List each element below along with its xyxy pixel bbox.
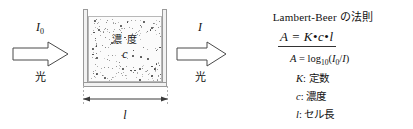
- main-equation-term3: l: [329, 29, 333, 44]
- particle-speckle-icon: [95, 77, 96, 78]
- particle-speckle-icon: [122, 28, 123, 29]
- particle-speckle-icon: [142, 66, 143, 67]
- particle-speckle-icon: [101, 68, 102, 69]
- concentration-symbol: c: [88, 47, 162, 62]
- particle-speckle-icon: [140, 20, 141, 21]
- definition-row-k: K: 定数: [238, 70, 408, 85]
- particle-speckle-icon: [141, 26, 142, 27]
- particle-speckle-icon: [94, 76, 95, 77]
- right-block-arrow-icon: [12, 41, 70, 67]
- particle-speckle-icon: [112, 68, 113, 69]
- lambert-beer-diagram: 濃 度 c I0 光 I 光 l Lambert-Beer の法則 A = K•…: [0, 0, 413, 129]
- particle-speckle-icon: [131, 20, 132, 21]
- incident-beam-subscript: 0: [40, 27, 44, 36]
- particle-speckle-icon: [98, 22, 99, 23]
- definition-separator-k: :: [303, 73, 306, 84]
- particle-speckle-icon: [140, 25, 141, 26]
- particle-speckle-icon: [153, 23, 154, 24]
- particle-speckle-icon: [155, 30, 156, 31]
- definition-meaning-k: 定数: [309, 73, 329, 84]
- particle-speckle-icon: [115, 23, 116, 24]
- particle-speckle-icon: [131, 71, 132, 72]
- particle-speckle-icon: [93, 71, 94, 72]
- particle-speckle-icon: [134, 70, 136, 72]
- particle-speckle-icon: [160, 78, 161, 79]
- particle-speckle-icon: [136, 77, 137, 78]
- particle-speckle-icon: [151, 75, 153, 77]
- particle-speckle-icon: [104, 77, 106, 79]
- particle-speckle-icon: [98, 29, 100, 31]
- definition-symbol-k: K: [296, 73, 303, 84]
- particle-speckle-icon: [126, 75, 127, 76]
- particle-speckle-icon: [156, 63, 158, 65]
- particle-speckle-icon: [104, 29, 105, 30]
- particle-speckle-icon: [149, 73, 150, 74]
- particle-speckle-icon: [97, 23, 98, 24]
- particle-speckle-icon: [159, 65, 160, 66]
- particle-speckle-icon: [142, 68, 143, 69]
- incident-beam-caption: 光: [12, 68, 68, 84]
- particle-speckle-icon: [156, 24, 157, 25]
- law-title: Lambert-Beer の法則: [238, 8, 408, 24]
- particle-speckle-icon: [120, 66, 121, 67]
- particle-speckle-icon: [116, 73, 117, 74]
- particle-speckle-icon: [148, 79, 149, 80]
- particle-speckle-icon: [154, 69, 155, 70]
- main-equation-lhs: A: [280, 29, 288, 44]
- particle-speckle-icon: [143, 21, 145, 23]
- particle-speckle-icon: [125, 75, 126, 76]
- particle-speckle-icon: [120, 30, 121, 31]
- particle-speckle-icon: [108, 67, 109, 68]
- particle-speckle-icon: [106, 22, 107, 23]
- particle-speckle-icon: [156, 20, 157, 21]
- absorbance-lhs: A: [290, 53, 296, 64]
- definition-meaning-c: 濃度: [306, 91, 326, 102]
- particle-speckle-icon: [157, 79, 158, 80]
- absorbance-equals: =: [299, 53, 305, 64]
- particle-speckle-icon: [107, 31, 108, 32]
- particle-speckle-icon: [123, 72, 124, 73]
- concentration-label: 濃 度: [88, 33, 162, 46]
- particle-speckle-icon: [122, 68, 124, 70]
- definition-meaning-l: セル長: [304, 109, 334, 120]
- particle-speckle-icon: [103, 75, 104, 76]
- particle-speckle-icon: [135, 20, 136, 21]
- particle-speckle-icon: [99, 26, 100, 27]
- particle-speckle-icon: [96, 73, 98, 75]
- particle-speckle-icon: [150, 29, 152, 31]
- particle-speckle-icon: [129, 27, 130, 28]
- particle-speckle-icon: [111, 79, 112, 80]
- particle-speckle-icon: [119, 68, 120, 69]
- main-equation-equals: =: [292, 29, 300, 44]
- particle-speckle-icon: [152, 78, 153, 79]
- particle-speckle-icon: [107, 20, 108, 21]
- particle-speckle-icon: [153, 80, 154, 81]
- definition-row-l: l: セル長: [238, 106, 408, 121]
- absorbance-definition: A = log10(I0/I): [238, 53, 408, 67]
- particle-speckle-icon: [113, 31, 114, 32]
- cuvette-wall-right: [162, 9, 167, 87]
- particle-speckle-icon: [100, 19, 101, 20]
- main-equation-term1: K: [304, 29, 313, 44]
- particle-speckle-icon: [113, 23, 114, 24]
- definition-separator-l: :: [299, 109, 302, 120]
- particle-speckle-icon: [147, 31, 148, 32]
- particle-speckle-icon: [116, 66, 117, 67]
- particle-speckle-icon: [93, 73, 94, 74]
- transmitted-beam-caption: 光: [176, 68, 224, 84]
- particle-speckle-icon: [148, 74, 149, 75]
- absorbance-close: ): [346, 53, 350, 64]
- transmitted-beam-label: I: [176, 20, 224, 36]
- particle-speckle-icon: [139, 68, 141, 70]
- particle-speckle-icon: [97, 66, 98, 67]
- main-equation: A = K•c•l: [278, 29, 336, 47]
- double-headed-arrow-icon: [78, 86, 173, 110]
- particle-speckle-icon: [146, 71, 147, 72]
- particle-speckle-icon: [115, 76, 116, 77]
- particle-speckle-icon: [120, 25, 122, 27]
- particle-speckle-icon: [107, 29, 108, 30]
- particle-speckle-icon: [160, 74, 162, 76]
- formula-block: Lambert-Beer の法則 A = K•c•l A = log10(I0/…: [238, 8, 408, 121]
- particle-speckle-icon: [158, 76, 159, 77]
- absorbance-func: log: [308, 53, 321, 64]
